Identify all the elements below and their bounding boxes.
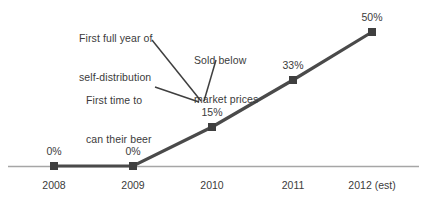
x-tick-label-2011: 2011: [258, 179, 328, 191]
data-point-2012: [368, 28, 376, 36]
value-label-2009: 0%: [110, 145, 156, 157]
x-tick-label-2012: 2012 (est): [337, 179, 407, 191]
value-label-2011: 33%: [270, 59, 316, 71]
value-label-2008: 0%: [31, 145, 77, 157]
annotation-can-beer-line1: First time to: [86, 94, 152, 107]
value-label-2010: 15%: [189, 106, 235, 118]
data-point-2008: [50, 162, 58, 170]
annotation-self-distribution-line1: First full year of: [79, 32, 153, 45]
line-chart: First full year of self-distribution Sol…: [0, 0, 427, 200]
data-point-2011: [289, 76, 297, 84]
x-tick-label-2009: 2009: [98, 179, 168, 191]
x-tick-label-2008: 2008: [19, 179, 89, 191]
annotation-market-prices-line2: market prices: [194, 93, 258, 106]
value-label-2012: 50%: [349, 11, 395, 23]
annotation-market-prices-line1: Sold below: [194, 54, 258, 67]
x-tick-label-2010: 2010: [177, 179, 247, 191]
